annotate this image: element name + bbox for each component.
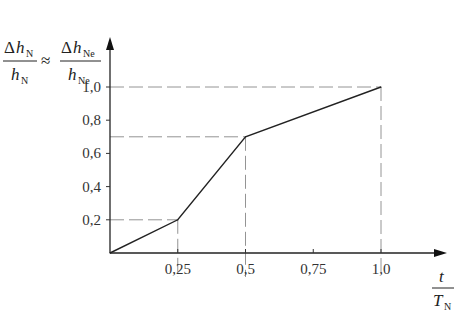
data-point <box>109 252 110 253</box>
y-tick-label: 0,6 <box>82 145 101 161</box>
y-label-left-num-main: h <box>16 38 25 57</box>
x-tick-label: 0,75 <box>300 261 326 277</box>
data-point <box>245 136 246 137</box>
y-label-left-den-sub: N <box>21 75 28 86</box>
series <box>109 86 381 253</box>
x-label-den-sub: N <box>444 301 451 312</box>
y-axis-arrow-icon <box>106 37 114 50</box>
x-tick-label: 1,0 <box>372 261 391 277</box>
data-point <box>380 86 381 87</box>
y-label-left-den-main: h <box>11 65 20 84</box>
y-label-left-num-delta: Δ <box>4 38 15 57</box>
y-axis-label: Δ h N h N ≈ Δ h Ne h Ne <box>3 38 101 86</box>
x-tick-label: 0,5 <box>236 261 255 277</box>
x-tick-label: 0,25 <box>165 261 191 277</box>
guide-lines <box>110 87 381 277</box>
x-label-numerator: t <box>439 267 445 286</box>
series-line <box>110 87 381 253</box>
y-tick-label: 0,8 <box>82 112 101 128</box>
y-label-left-num-sub: N <box>26 48 33 59</box>
y-label-right-den-sub: Ne <box>78 75 90 86</box>
x-axis-arrow-icon <box>434 249 447 257</box>
y-label-right-num-main: h <box>73 38 82 57</box>
y-label-right-den-main: h <box>68 65 77 84</box>
data-point <box>177 219 178 220</box>
x-axis-label: t T N <box>432 267 454 312</box>
y-label-right-num-sub: Ne <box>83 48 95 59</box>
ticks: 0,250,50,751,00,20,40,60,81,0 <box>82 79 390 277</box>
x-label-den-main: T <box>433 291 444 310</box>
y-tick-label: 0,2 <box>82 212 101 228</box>
axes <box>106 37 447 257</box>
y-tick-label: 0,4 <box>82 179 101 195</box>
chart: 0,250,50,751,00,20,40,60,81,0 Δ h N h N … <box>0 0 475 316</box>
y-label-right-num-delta: Δ <box>61 38 72 57</box>
y-label-approx: ≈ <box>41 51 50 70</box>
